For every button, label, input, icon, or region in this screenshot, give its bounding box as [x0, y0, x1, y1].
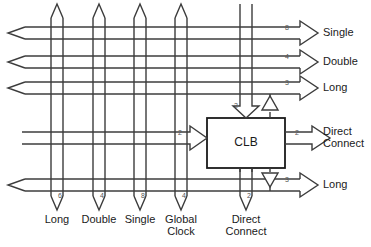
horizontal-band-direct-connect: [22, 132, 170, 144]
right-arrowhead-single: [300, 21, 318, 45]
bottom-label-global-clock: Global Clock: [151, 213, 211, 237]
right-label-direct-connect: Direct Connect: [323, 125, 364, 149]
tristate-buffer-top: [262, 94, 278, 118]
fpga-routing-diagram: Single Double Long Direct Connect Long 8…: [0, 0, 371, 247]
horizontal-band-long-bottom: [8, 179, 300, 191]
bus-width-clb-left-input: 2: [178, 127, 182, 139]
bus-width-global-clock-bus: 4: [182, 190, 186, 202]
bus-width-long-bus: 6: [58, 190, 62, 202]
diagram-canvas: [0, 0, 371, 247]
bus-width-long-out-top: 3: [285, 77, 289, 89]
horizontal-band-double: [8, 56, 300, 68]
right-arrowhead-long-top: [300, 76, 318, 100]
right-label-long-bottom: Long: [323, 178, 347, 190]
bus-width-double-out: 4: [285, 51, 289, 63]
bottom-label-direct-connect: Direct Connect: [211, 213, 281, 237]
bus-width-single-out: 8: [285, 22, 289, 34]
right-label-long-top: Long: [323, 81, 347, 93]
bus-width-single-bus: 8: [141, 190, 145, 202]
right-arrowhead-long-bottom: [300, 173, 318, 197]
bus-width-direct-connect-in: 2: [247, 190, 251, 202]
horizontal-band-single: [8, 27, 300, 39]
right-arrowhead-double: [300, 50, 318, 74]
bus-width-long-out-bottom: 3: [285, 174, 289, 186]
right-label-double: Double: [323, 55, 358, 67]
bus-width-clb-top-input: 2: [234, 100, 238, 112]
bus-width-double-bus: 4: [100, 190, 104, 202]
clb-block-label: CLB: [207, 136, 285, 148]
horizontal-band-long-top: [8, 82, 300, 94]
bus-width-direct-connect-out: 2: [295, 127, 299, 139]
right-label-single: Single: [323, 26, 354, 38]
